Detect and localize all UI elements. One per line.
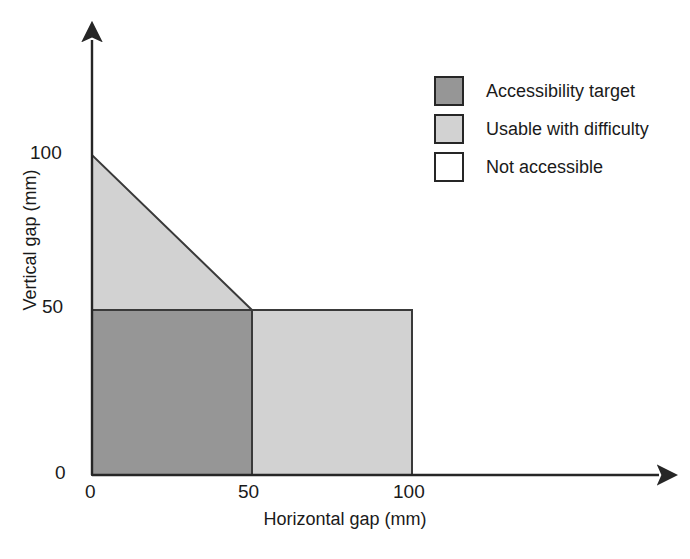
y-tick-label-0: 0 bbox=[55, 463, 66, 482]
legend-swatch-not-accessible bbox=[434, 152, 464, 182]
y-tick-label-50: 50 bbox=[42, 297, 63, 316]
legend-label-usable-with-difficulty: Usable with difficulty bbox=[486, 119, 649, 140]
legend-item-not-accessible: Not accessible bbox=[434, 148, 684, 186]
x-tick-label-0: 0 bbox=[85, 482, 96, 501]
legend-swatch-accessibility-target bbox=[434, 76, 464, 106]
legend: Accessibility target Usable with difficu… bbox=[434, 72, 684, 186]
region-accessibility-target bbox=[92, 310, 252, 475]
y-tick-label-100: 100 bbox=[30, 143, 62, 162]
legend-label-accessibility-target: Accessibility target bbox=[486, 81, 635, 102]
legend-item-usable-with-difficulty: Usable with difficulty bbox=[434, 110, 684, 148]
region-usable-with-difficulty-rect bbox=[252, 310, 412, 475]
chart-figure: 100 50 0 0 50 100 Horizontal gap (mm) Ve… bbox=[0, 0, 690, 559]
legend-label-not-accessible: Not accessible bbox=[486, 157, 603, 178]
x-axis-title: Horizontal gap (mm) bbox=[0, 510, 690, 528]
legend-item-accessibility-target: Accessibility target bbox=[434, 72, 684, 110]
x-tick-label-100: 100 bbox=[393, 482, 425, 501]
x-tick-label-50: 50 bbox=[238, 482, 259, 501]
region-usable-with-difficulty-triangle bbox=[92, 155, 252, 310]
legend-swatch-usable-with-difficulty bbox=[434, 114, 464, 144]
